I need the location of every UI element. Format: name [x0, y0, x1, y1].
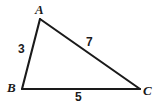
vertex-label-a: A: [35, 3, 44, 16]
triangle-figure: A B C 3 7 5: [0, 0, 156, 107]
vertex-label-b: B: [7, 81, 16, 94]
side-length-label-bc: 5: [75, 91, 82, 103]
side-length-label-ac: 7: [86, 36, 93, 48]
side-length-label-ab: 3: [18, 43, 25, 55]
vertex-label-c: C: [143, 84, 152, 97]
